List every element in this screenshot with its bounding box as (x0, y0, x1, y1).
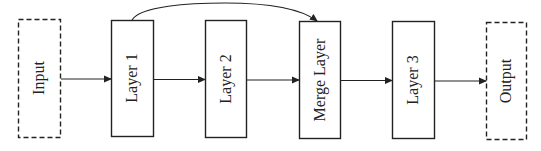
layer2-node-label: Layer 2 (218, 54, 234, 103)
input-node-label: Input (31, 61, 47, 95)
layer1-node-label: Layer 1 (124, 53, 140, 102)
edge-layer1-to-merge-skip-curve (132, 3, 317, 21)
layer3-node-label: Layer 3 (405, 55, 421, 104)
output-node-label: Output (498, 59, 514, 103)
diagram-canvas (0, 0, 541, 151)
merge-layer-node-label: Merge Layer (312, 39, 328, 122)
